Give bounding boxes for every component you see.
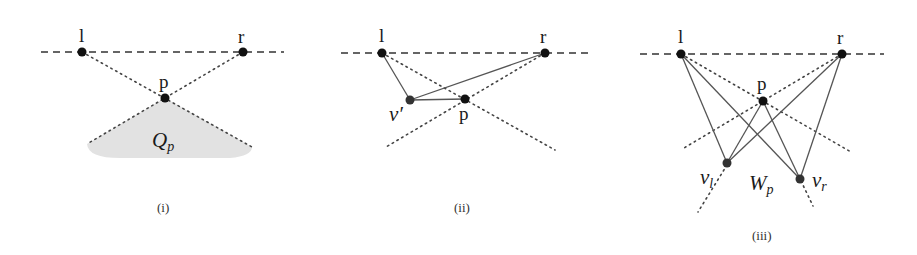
label-p: p bbox=[757, 73, 767, 94]
point-r bbox=[838, 50, 847, 59]
figure: l r p Qp (i) l r v′ p (ii) bbox=[0, 0, 917, 255]
point-v-prime bbox=[406, 96, 415, 105]
label-vl: vl bbox=[700, 165, 713, 191]
edge-l-vl bbox=[681, 54, 727, 163]
caption-iii: (iii) bbox=[752, 228, 772, 243]
point-l bbox=[78, 48, 87, 57]
label-r: r bbox=[837, 27, 844, 48]
edge-l-v bbox=[382, 53, 410, 100]
point-p bbox=[161, 94, 170, 103]
label-l: l bbox=[678, 26, 683, 47]
point-r bbox=[239, 48, 248, 57]
panel-i: l r p Qp (i) bbox=[41, 25, 284, 215]
label-v-prime: v′ bbox=[389, 102, 403, 126]
caption-i: (i) bbox=[157, 200, 169, 215]
edge-v-p bbox=[410, 99, 465, 100]
point-r bbox=[541, 49, 550, 58]
point-vl bbox=[723, 159, 732, 168]
label-r: r bbox=[540, 26, 547, 47]
label-p: p bbox=[459, 103, 469, 124]
point-vr bbox=[796, 175, 805, 184]
edge-p-vl bbox=[727, 101, 763, 163]
edge-r-vr bbox=[800, 54, 842, 179]
point-l bbox=[677, 50, 686, 59]
caption-ii: (ii) bbox=[454, 200, 470, 215]
label-wp: Wp bbox=[749, 171, 774, 197]
label-l: l bbox=[79, 25, 84, 46]
edge-l-vr bbox=[681, 54, 800, 179]
point-p bbox=[759, 97, 768, 106]
label-p: p bbox=[159, 71, 169, 92]
panel-iii: l r p vl Wp vr (iii) bbox=[640, 26, 884, 243]
label-vr: vr bbox=[812, 168, 827, 194]
label-l: l bbox=[379, 25, 384, 46]
label-r: r bbox=[238, 26, 245, 47]
panel-ii: l r v′ p (ii) bbox=[341, 25, 592, 215]
point-l bbox=[378, 49, 387, 58]
